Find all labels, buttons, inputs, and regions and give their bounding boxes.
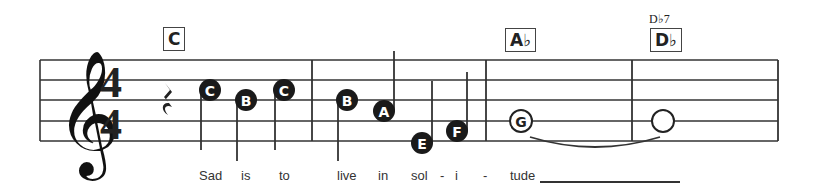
time-signature-bottom: 4 bbox=[100, 100, 122, 149]
note-letter: E bbox=[417, 136, 427, 152]
quarter-rest-icon bbox=[163, 83, 172, 115]
lyric-extender-line bbox=[540, 181, 680, 183]
whole-note-head bbox=[652, 110, 674, 132]
note-letter: G bbox=[515, 114, 527, 130]
lyric-syllable: is bbox=[241, 168, 250, 183]
lyric-syllable: Sad bbox=[199, 168, 222, 183]
lyric-syllable: tude bbox=[510, 168, 535, 183]
note-letter: A bbox=[379, 104, 390, 120]
note-letter: B bbox=[241, 93, 252, 109]
lyric-syllable: sol bbox=[411, 168, 428, 183]
note-letter: F bbox=[452, 124, 462, 140]
chord-symbol: C bbox=[163, 27, 185, 51]
lyric-syllable: - bbox=[440, 168, 444, 183]
lyric-syllable: in bbox=[378, 168, 388, 183]
lyric-syllable: to bbox=[279, 168, 290, 183]
note-letter: C bbox=[205, 83, 215, 99]
chord-symbol: D♭ bbox=[650, 28, 682, 52]
tie bbox=[530, 137, 660, 147]
music-staff: 𝄞44CBCBAEFG bbox=[0, 0, 817, 196]
chord-symbol: A♭ bbox=[505, 28, 536, 52]
chord-alt-symbol: D♭7 bbox=[649, 12, 670, 27]
lyric-syllable: i bbox=[455, 168, 458, 183]
note-letter: C bbox=[279, 83, 289, 99]
lyric-syllable: live bbox=[337, 168, 357, 183]
note-letter: B bbox=[342, 93, 353, 109]
lyric-syllable: - bbox=[483, 168, 487, 183]
